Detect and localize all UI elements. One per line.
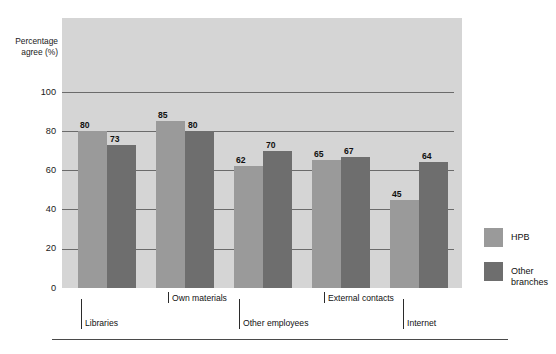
bar-libraries-hpb [78,131,107,288]
legend-item-other-branches: Other branches [484,262,556,296]
x-tick-mark-other-employees [239,299,240,329]
bar-value-own-materials-hpb: 85 [158,111,168,120]
bar-value-internet-other: 64 [422,152,432,161]
bar-internet-other [419,162,448,288]
bar-value-libraries-other: 73 [110,135,120,144]
bar-value-external-contacts-hpb: 65 [314,150,324,159]
bar-other-employees-other [263,151,292,288]
gridline-80 [62,131,454,132]
bar-own-materials-hpb [156,121,185,288]
x-tick-mark-libraries [81,299,82,329]
bar-external-contacts-hpb [312,160,341,288]
y-tick-label-20: 20 [16,243,56,253]
y-tick-label-0: 0 [16,283,56,293]
bar-external-contacts-other [341,157,370,288]
plot-area: 80 73 85 80 62 70 65 67 45 64 [62,18,462,288]
bottom-divider-rule [52,339,508,340]
y-tick-label-80: 80 [16,126,56,136]
x-axis-label-own-materials: Own materials [172,293,227,303]
y-tick-label-100: 100 [16,87,56,97]
x-axis-label-other-employees: Other employees [243,318,308,328]
legend-item-hpb: HPB [484,228,556,262]
legend-swatch-other-branches [484,262,503,281]
bar-chart-figure: Percentage agree (%) 100 80 60 40 20 0 8… [0,0,556,354]
x-tick-mark-internet [403,299,404,329]
legend-swatch-hpb [484,228,503,247]
bar-internet-hpb [390,200,419,288]
bar-value-internet-hpb: 45 [392,190,402,199]
bar-value-own-materials-other: 80 [188,121,198,130]
bar-value-other-employees-hpb: 62 [236,156,246,165]
legend-label-hpb: HPB [511,232,530,243]
x-tick-mark-own-materials [168,292,169,303]
legend-label-other-branches: Other branches [511,266,548,287]
bar-other-employees-hpb [234,166,263,288]
x-tick-mark-external-contacts [324,292,325,303]
bar-value-other-employees-other: 70 [266,141,276,150]
y-axis-title: Percentage agree (%) [2,36,58,58]
bar-own-materials-other [185,131,214,288]
legend: HPB Other branches [484,228,556,296]
bar-libraries-other [107,145,136,288]
y-tick-label-60: 60 [16,165,56,175]
bar-value-libraries-hpb: 80 [80,121,90,130]
x-axis-label-external-contacts: External contacts [328,293,394,303]
y-tick-label-40: 40 [16,204,56,214]
gridline-100 [62,92,454,93]
bar-value-external-contacts-other: 67 [344,147,354,156]
x-axis-label-libraries: Libraries [85,318,118,328]
x-axis-label-internet: Internet [407,318,436,328]
